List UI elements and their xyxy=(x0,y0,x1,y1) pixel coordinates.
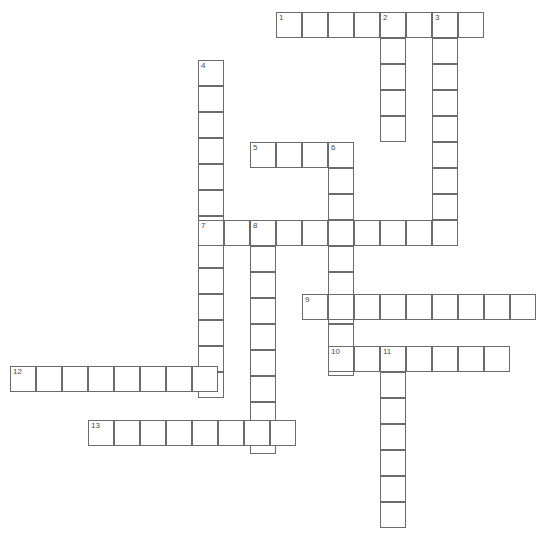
crossword-cell[interactable] xyxy=(302,12,328,38)
crossword-cell[interactable]: 3 xyxy=(432,12,458,38)
crossword-cell[interactable] xyxy=(380,424,406,450)
crossword-cell[interactable] xyxy=(380,294,406,320)
crossword-cell[interactable] xyxy=(380,502,406,528)
crossword-cell[interactable] xyxy=(354,346,380,372)
crossword-cell[interactable] xyxy=(354,12,380,38)
crossword-cell[interactable] xyxy=(36,366,62,392)
crossword-cell[interactable] xyxy=(328,246,354,272)
crossword-cell[interactable] xyxy=(166,420,192,446)
crossword-cell[interactable] xyxy=(432,90,458,116)
crossword-cell[interactable] xyxy=(250,246,276,272)
clue-number-12: 12 xyxy=(13,367,22,377)
crossword-grid: 12345678910111213 xyxy=(0,0,549,534)
crossword-cell[interactable] xyxy=(302,220,328,246)
clue-number-4: 4 xyxy=(201,61,205,71)
crossword-cell[interactable] xyxy=(432,194,458,220)
crossword-cell[interactable] xyxy=(484,294,510,320)
crossword-cell[interactable] xyxy=(458,294,484,320)
crossword-cell[interactable] xyxy=(192,366,218,392)
crossword-cell[interactable] xyxy=(432,346,458,372)
crossword-cell[interactable] xyxy=(406,346,432,372)
crossword-cell[interactable] xyxy=(198,294,224,320)
crossword-cell[interactable] xyxy=(328,168,354,194)
crossword-cell[interactable] xyxy=(458,346,484,372)
crossword-cell[interactable]: 8 xyxy=(250,220,276,246)
crossword-cell[interactable] xyxy=(380,476,406,502)
crossword-cell[interactable] xyxy=(198,138,224,164)
crossword-cell[interactable]: 13 xyxy=(88,420,114,446)
crossword-cell[interactable] xyxy=(432,168,458,194)
crossword-cell[interactable] xyxy=(328,194,354,220)
crossword-cell[interactable] xyxy=(380,450,406,476)
crossword-cell[interactable] xyxy=(276,142,302,168)
crossword-cell[interactable] xyxy=(244,420,270,446)
crossword-cell[interactable] xyxy=(380,116,406,142)
clue-number-11: 11 xyxy=(383,347,391,357)
crossword-cell[interactable] xyxy=(432,220,458,246)
crossword-cell[interactable] xyxy=(218,420,244,446)
crossword-cell[interactable] xyxy=(198,190,224,216)
crossword-cell[interactable] xyxy=(328,294,354,320)
crossword-cell[interactable] xyxy=(224,220,250,246)
crossword-cell[interactable] xyxy=(88,366,114,392)
crossword-cell[interactable] xyxy=(250,272,276,298)
crossword-cell[interactable] xyxy=(198,112,224,138)
crossword-cell[interactable] xyxy=(484,346,510,372)
clue-number-10: 10 xyxy=(331,347,340,357)
crossword-cell[interactable] xyxy=(380,372,406,398)
clue-number-2: 2 xyxy=(383,13,387,23)
crossword-cell[interactable]: 9 xyxy=(302,294,328,320)
crossword-cell[interactable] xyxy=(510,294,536,320)
crossword-cell[interactable]: 7 xyxy=(198,220,224,246)
clue-number-6: 6 xyxy=(331,143,335,153)
crossword-cell[interactable] xyxy=(406,12,432,38)
crossword-cell[interactable] xyxy=(432,116,458,142)
clue-number-5: 5 xyxy=(253,143,257,153)
crossword-cell[interactable] xyxy=(250,350,276,376)
crossword-cell[interactable]: 12 xyxy=(10,366,36,392)
crossword-cell[interactable]: 6 xyxy=(328,142,354,168)
crossword-cell[interactable] xyxy=(270,420,296,446)
crossword-cell[interactable] xyxy=(302,142,328,168)
crossword-cell[interactable]: 11 xyxy=(380,346,406,372)
crossword-cell[interactable] xyxy=(328,220,354,246)
crossword-cell[interactable] xyxy=(198,268,224,294)
crossword-cell[interactable] xyxy=(192,420,218,446)
crossword-cell[interactable]: 1 xyxy=(276,12,302,38)
crossword-cell[interactable] xyxy=(166,366,192,392)
crossword-cell[interactable] xyxy=(198,86,224,112)
crossword-cell[interactable] xyxy=(276,220,302,246)
crossword-cell[interactable] xyxy=(406,220,432,246)
crossword-cell[interactable] xyxy=(458,12,484,38)
crossword-cell[interactable] xyxy=(328,12,354,38)
crossword-cell[interactable] xyxy=(380,90,406,116)
crossword-cell[interactable] xyxy=(432,64,458,90)
crossword-cell[interactable] xyxy=(140,420,166,446)
crossword-cell[interactable] xyxy=(380,220,406,246)
crossword-cell[interactable] xyxy=(406,294,432,320)
crossword-cell[interactable] xyxy=(140,366,166,392)
crossword-cell[interactable] xyxy=(114,366,140,392)
crossword-cell[interactable] xyxy=(380,38,406,64)
crossword-cell[interactable] xyxy=(250,376,276,402)
crossword-cell[interactable] xyxy=(432,294,458,320)
clue-number-9: 9 xyxy=(305,295,309,305)
crossword-cell[interactable] xyxy=(380,398,406,424)
clue-number-7: 7 xyxy=(201,221,205,231)
crossword-cell[interactable] xyxy=(432,142,458,168)
clue-number-1: 1 xyxy=(279,13,283,23)
crossword-cell[interactable] xyxy=(380,64,406,90)
crossword-cell[interactable] xyxy=(198,320,224,346)
crossword-cell[interactable] xyxy=(114,420,140,446)
crossword-cell[interactable]: 10 xyxy=(328,346,354,372)
crossword-cell[interactable] xyxy=(354,220,380,246)
crossword-cell[interactable]: 4 xyxy=(198,60,224,86)
crossword-cell[interactable]: 2 xyxy=(380,12,406,38)
crossword-cell[interactable] xyxy=(250,324,276,350)
crossword-cell[interactable] xyxy=(62,366,88,392)
crossword-cell[interactable] xyxy=(354,294,380,320)
crossword-cell[interactable] xyxy=(432,38,458,64)
crossword-cell[interactable] xyxy=(198,164,224,190)
crossword-cell[interactable] xyxy=(250,298,276,324)
crossword-cell[interactable]: 5 xyxy=(250,142,276,168)
